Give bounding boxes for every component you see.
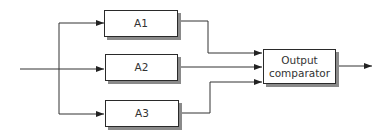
comparator-label-line1: Output xyxy=(281,54,317,67)
block-a3: A3 xyxy=(105,100,179,127)
block-a2-label: A2 xyxy=(135,61,149,74)
block-a1: A1 xyxy=(104,10,178,37)
block-a1-label: A1 xyxy=(134,17,148,30)
a3-to-comparator xyxy=(179,82,262,113)
block-a2: A2 xyxy=(105,54,178,81)
block-output-comparator: Output comparator xyxy=(263,49,336,84)
comparator-label-line2: comparator xyxy=(269,67,330,80)
a1-to-comparator xyxy=(178,21,262,53)
block-a3-label: A3 xyxy=(135,107,149,120)
